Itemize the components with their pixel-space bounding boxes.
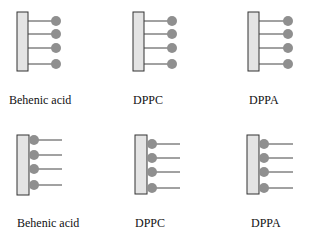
panel-top-dppa [248,12,293,71]
substrate [248,12,259,71]
substrate [133,12,144,71]
substrate [17,12,28,71]
panel-top-dppc [133,12,177,71]
monolayer-diagram [0,0,310,241]
substrate [17,135,29,195]
label-top-dppc: DPPC [133,93,163,108]
panel-bottom-behenic-acid [17,135,62,195]
panel-bottom-dppa [247,135,293,194]
panel-bottom-dppc [135,135,180,194]
label-bottom-dppc: DPPC [135,216,165,231]
panel-top-behenic-acid [17,12,61,71]
substrate [247,135,259,194]
label-bottom-behenic-acid: Behenic acid [17,216,79,231]
label-top-dppa: DPPA [249,93,279,108]
substrate [135,135,147,194]
label-bottom-dppa: DPPA [251,216,281,231]
label-top-behenic-acid: Behenic acid [9,93,71,108]
